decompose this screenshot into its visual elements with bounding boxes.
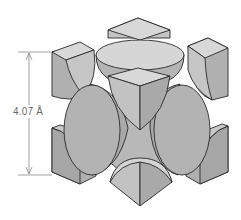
lattice-constant-label: 4.07 Å (12, 105, 44, 118)
atom-corner-front-bottom (110, 158, 172, 206)
atom-corner-back-top (108, 18, 170, 40)
